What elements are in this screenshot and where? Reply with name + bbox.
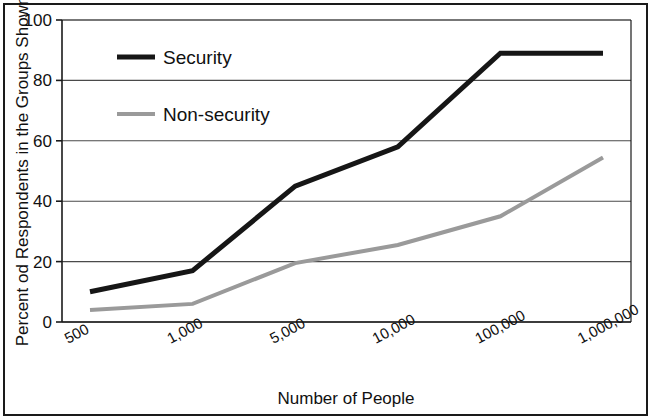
y-tick-label-40: 40 — [33, 192, 52, 211]
legend-label-security: Security — [163, 47, 232, 68]
plot-area-background — [62, 20, 631, 322]
x-tick-label-500: 500 — [61, 320, 91, 347]
y-tick-marks — [56, 20, 62, 322]
y-tick-label-0: 0 — [43, 313, 52, 332]
y-axis-title: Percent od Respondents in the Groups Sho… — [13, 0, 32, 346]
y-tick-label-60: 60 — [33, 132, 52, 151]
chart-figure: 020406080100 5001,0005,00010,000100,0001… — [0, 0, 652, 420]
legend-label-non-security: Non-security — [163, 104, 270, 125]
line-chart: 020406080100 5001,0005,00010,000100,0001… — [0, 0, 652, 420]
y-tick-label-20: 20 — [33, 253, 52, 272]
y-tick-label-80: 80 — [33, 71, 52, 90]
x-axis-title: Number of People — [277, 389, 414, 408]
